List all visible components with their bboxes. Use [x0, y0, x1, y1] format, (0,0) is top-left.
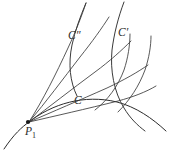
label-C-double-prime-letter: C — [68, 29, 76, 41]
label-C-double-prime-mark: ″ — [76, 29, 81, 41]
label-C-double-prime: C″ — [68, 30, 80, 42]
curve-C-double-prime-path — [70, 3, 86, 96]
fan-curve-1 — [29, 86, 156, 122]
label-C-prime: C′ — [118, 27, 128, 39]
figure-container: C″ C′ C P1 — [0, 0, 172, 156]
label-C: C — [74, 95, 82, 107]
label-C-prime-mark: ′ — [126, 26, 129, 38]
label-P1: P1 — [25, 126, 36, 140]
label-P1-subscript: 1 — [32, 131, 36, 140]
label-C-prime-letter: C — [118, 26, 126, 38]
point-P1-marker — [26, 120, 30, 124]
fan-curve-2 — [29, 65, 148, 122]
label-P1-letter: P — [25, 125, 32, 137]
